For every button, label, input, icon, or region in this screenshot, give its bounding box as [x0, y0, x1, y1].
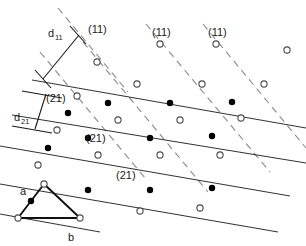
open-lattice-point: [238, 115, 244, 121]
open-lattice-point: [77, 215, 83, 221]
open-lattice-point: [217, 152, 223, 158]
d11-label-main: d: [48, 27, 54, 39]
plane-family-11-dashed-lines: [40, 8, 306, 192]
unit-cell-diagonal: [44, 184, 80, 218]
filled-lattice-point: [209, 133, 215, 139]
dashed-plane-line-4: [146, 24, 270, 172]
plane-label-21-a: (21): [46, 92, 66, 104]
filled-lattice-point: [147, 135, 153, 141]
d21-label-main: d: [14, 111, 20, 123]
open-lattice-point: [54, 127, 60, 133]
vector-b-label: b: [68, 231, 74, 243]
open-lattice-point: [74, 93, 80, 99]
filled-lattice-point: [147, 187, 153, 193]
plane-label-21-c: (21): [116, 169, 136, 181]
d21-label-subscript: 21: [21, 117, 29, 126]
open-lattice-point: [115, 117, 121, 123]
open-lattice-point: [197, 205, 203, 211]
open-lattice-point: [15, 215, 21, 221]
d21-tick-bottom: [12, 126, 52, 133]
filled-lattice-point: [65, 110, 71, 116]
filled-lattice-point: [28, 198, 34, 204]
dashed-plane-line-1: [58, 8, 128, 92]
dashed-plane-line-3: [83, 42, 208, 192]
open-lattice-point: [157, 152, 163, 158]
open-lattice-point: [41, 181, 47, 187]
filled-lattice-point: [209, 185, 215, 191]
plane-label-11-b: (11): [152, 26, 171, 38]
open-lattice-point: [213, 41, 219, 47]
lattice-diagram-svg: d 11 d 21 (11) (11) (11) (21) (21) (21) …: [0, 0, 306, 246]
d11-tick-top: [70, 26, 86, 44]
open-lattice-point: [177, 117, 183, 123]
plane-label-21-b: (21): [86, 132, 106, 144]
open-lattice-point: [95, 152, 101, 158]
filled-lattice-points: [28, 99, 235, 204]
open-lattice-point: [199, 81, 205, 87]
d11-label-subscript: 11: [55, 33, 63, 42]
plane-label-11-c: (11): [208, 26, 227, 38]
open-lattice-point: [94, 59, 100, 65]
vector-a-label: a: [20, 185, 27, 197]
plane-label-11-a: (11): [88, 23, 107, 35]
d21-measure-line: [35, 94, 46, 129]
open-lattice-point: [157, 41, 163, 47]
lattice-figure: d 11 d 21 (11) (11) (11) (21) (21) (21) …: [0, 0, 306, 246]
dashed-plane-line-2: [40, 52, 145, 178]
filled-lattice-point: [85, 187, 91, 193]
filled-lattice-point: [167, 100, 173, 106]
open-lattice-point: [137, 208, 143, 214]
open-lattice-point: [134, 81, 140, 87]
filled-lattice-point: [105, 100, 111, 106]
open-lattice-point: [284, 47, 290, 53]
filled-lattice-point: [229, 99, 235, 105]
open-lattice-point: [35, 162, 41, 168]
open-lattice-point: [261, 81, 267, 87]
filled-lattice-point: [45, 145, 51, 151]
